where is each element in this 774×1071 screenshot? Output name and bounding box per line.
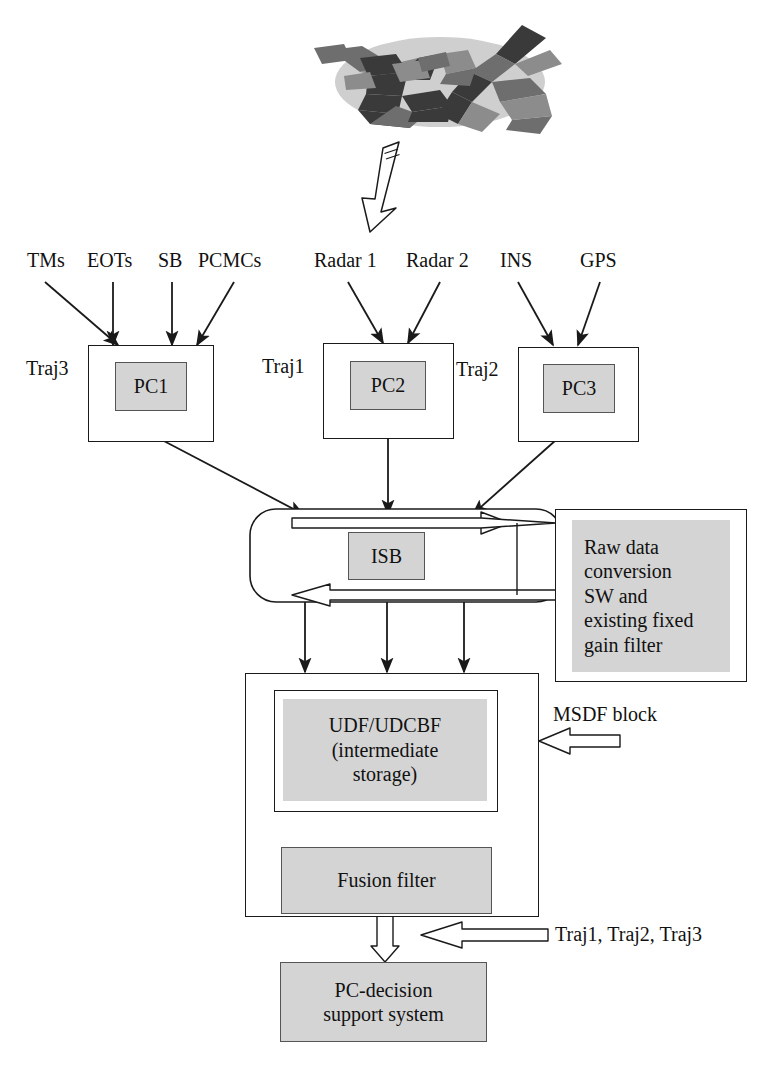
- source-label-radar2: Radar 2: [406, 249, 469, 272]
- arrow-tms-to-pc1: [45, 282, 118, 345]
- aircraft-illustration: [300, 20, 580, 150]
- pc-decision-line-1: PC-decision: [323, 978, 444, 1002]
- pc1-box[interactable]: PC1: [115, 362, 187, 411]
- pc2-label: PC2: [371, 373, 405, 397]
- rawdata-line-2: conversion: [584, 559, 693, 583]
- pc1-label: PC1: [134, 374, 168, 398]
- pc-decision-box[interactable]: PC-decision support system: [280, 962, 487, 1042]
- udf-box[interactable]: UDF/UDCBF (intermediate storage): [283, 699, 487, 801]
- pc-decision-line-2: support system: [323, 1002, 444, 1026]
- msdf-annotation-label: MSDF block: [553, 703, 657, 726]
- fusion-filter-box[interactable]: Fusion filter: [281, 847, 492, 914]
- pc2-box[interactable]: PC2: [350, 361, 426, 410]
- udf-line-1: UDF/UDCBF: [329, 713, 441, 737]
- rawdata-line-3: SW and: [584, 584, 693, 608]
- fusion-filter-label: Fusion filter: [337, 868, 435, 892]
- traj-label-pc2: Traj1: [262, 355, 305, 378]
- traj-label-pc3: Traj2: [456, 358, 499, 381]
- arrow-msdf-to-output: [371, 915, 399, 962]
- source-label-gps: GPS: [580, 249, 617, 272]
- isb-box[interactable]: ISB: [348, 532, 425, 580]
- rawdata-line-1: Raw data: [584, 535, 693, 559]
- arrow-pcmcs-to-pc1: [197, 282, 234, 345]
- source-label-tms: TMs: [27, 249, 65, 272]
- plane-to-sources-arrow: [362, 142, 400, 232]
- isb-label: ISB: [371, 544, 402, 568]
- rawdata-line-5: gain filter: [584, 633, 693, 657]
- pc3-label: PC3: [562, 376, 596, 400]
- arrow-radar2-to-pc2: [408, 282, 440, 343]
- source-label-eots: EOTs: [87, 249, 132, 272]
- source-label-radar1: Radar 1: [314, 249, 377, 272]
- arrow-pc3-to-isb: [473, 440, 556, 514]
- pc3-box[interactable]: PC3: [543, 364, 615, 413]
- source-label-ins: INS: [500, 249, 532, 272]
- arrow-msdf-annotation: [539, 728, 620, 754]
- source-label-pcmcs: PCMCs: [198, 249, 261, 272]
- traj-label-pc1: Traj3: [26, 357, 69, 380]
- arrow-isb-to-rawdata: [292, 512, 556, 534]
- arrow-ins-to-pc3: [518, 282, 553, 345]
- rawdata-block[interactable]: Raw data conversion SW and existing fixe…: [572, 520, 730, 672]
- arrow-pc1-to-isb: [162, 440, 303, 514]
- arrow-gps-to-pc3: [578, 282, 600, 345]
- traj-feedback-label: Traj1, Traj2, Traj3: [555, 923, 702, 946]
- arrow-traj-feedback: [421, 922, 548, 948]
- udf-line-2: (intermediate: [329, 738, 441, 762]
- source-label-sb: SB: [158, 249, 182, 272]
- rawdata-line-4: existing fixed: [584, 608, 693, 632]
- udf-line-3: storage): [329, 762, 441, 786]
- arrow-radar1-to-pc2: [348, 282, 383, 343]
- arrow-rawdata-to-isb: [292, 584, 556, 606]
- diagram-canvas: TMs EOTs SB PCMCs Radar 1 Radar 2 INS GP…: [0, 0, 774, 1071]
